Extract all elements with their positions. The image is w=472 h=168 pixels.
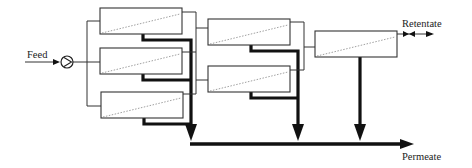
stage2-module-2 — [208, 66, 290, 92]
feed-label: Feed — [27, 49, 48, 60]
stage1-module-1 — [100, 8, 182, 34]
stage1-retentate-collector — [182, 12, 208, 94]
permeate-main-line — [190, 139, 414, 149]
stage3-module — [315, 31, 397, 57]
permeate-arrow-icon — [400, 139, 414, 149]
pump-icon — [61, 56, 73, 68]
retentate-label: Retentate — [402, 18, 442, 29]
retentate-outlet — [397, 31, 434, 37]
stage2-module-1 — [208, 19, 290, 45]
membrane-cascade-diagram: Feed — [0, 0, 472, 168]
stage2-permeate-lines — [251, 45, 304, 141]
permeate-label: Permeate — [402, 151, 441, 162]
stage3-permeate-line — [354, 57, 366, 141]
stage1-feed-manifold — [87, 21, 101, 106]
stage2-retentate-collector — [290, 22, 315, 70]
retentate-arrow-icon — [426, 31, 434, 37]
stage1-module-3 — [101, 92, 183, 118]
stage1-module-2 — [100, 48, 182, 74]
retentate-valve-icon — [403, 31, 415, 37]
